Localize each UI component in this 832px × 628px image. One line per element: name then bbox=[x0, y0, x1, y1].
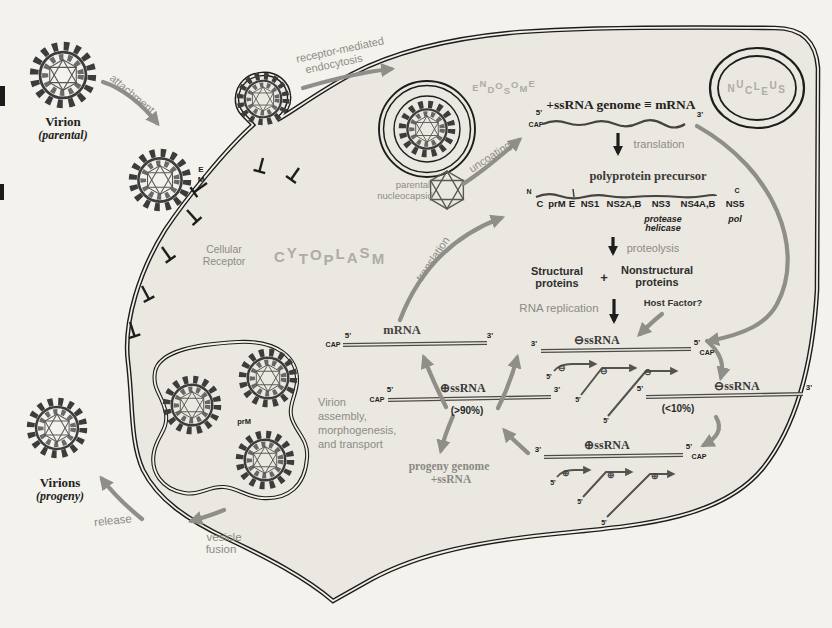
segment-ns1: NS1 bbox=[581, 199, 599, 209]
ri-top-cap: CAP bbox=[700, 349, 715, 356]
genome-three-prime: 3' bbox=[697, 111, 703, 119]
mrna-cap: CAP bbox=[326, 341, 341, 348]
host-factor-label: Host Factor? bbox=[644, 298, 703, 308]
ri-bottom-nascent-symbol-2: ⊕ bbox=[607, 471, 615, 480]
nonstructural-proteins-line2: proteins bbox=[635, 277, 678, 288]
ri-bottom-nascent-five-3: 5' bbox=[601, 519, 607, 526]
minus-three-prime: 3' bbox=[806, 384, 812, 392]
virions-progeny-subtitle: (progeny) bbox=[36, 490, 84, 502]
assembly-label-line1: Virion bbox=[318, 397, 346, 408]
assembly-label-line2: assembly, bbox=[318, 411, 367, 422]
virion-parental-title: Virion bbox=[45, 115, 81, 128]
segment-ns5: NS5 bbox=[726, 199, 744, 209]
flavivirus-lifecycle-figure: Virion (parental) attachment receptor-me… bbox=[0, 0, 832, 628]
ns3-helicase-label: helicase bbox=[645, 224, 681, 233]
plus-five-prime: 5' bbox=[387, 386, 393, 394]
polyprotein-c-terminus: C bbox=[734, 187, 739, 194]
attached-virion-icon bbox=[133, 153, 187, 207]
progeny-genome-label-line2: +ssRNA bbox=[431, 474, 471, 486]
ri-bottom-nascent-symbol-3: ⊕ bbox=[651, 472, 659, 481]
endosome-label: ENDOSOME bbox=[472, 82, 535, 92]
e-protein-label: E bbox=[198, 166, 203, 174]
virion-parental-subtitle: (parental) bbox=[38, 129, 87, 141]
parental-virion-icon bbox=[34, 46, 92, 104]
vesicle-fusion-label-line2: fusion bbox=[206, 544, 237, 556]
genome-five-prime: 5' bbox=[536, 109, 542, 117]
segment-ns2ab: NS2A,B bbox=[607, 199, 642, 209]
ns5-pol-label: pol bbox=[728, 215, 742, 224]
segment-ns4ab: NS4A,B bbox=[681, 199, 716, 209]
ri-top-nascent-five-2: 5' bbox=[575, 396, 581, 403]
ri-top-nascent-symbol-3: ⊖ bbox=[644, 368, 652, 377]
progeny-genome-label-line1: progeny genome bbox=[409, 461, 490, 473]
translation-label: translation bbox=[634, 139, 685, 150]
ri-bottom-label: ⊕ssRNA bbox=[584, 439, 629, 451]
prm-label: prM bbox=[237, 418, 251, 426]
structural-proteins-line1: Structural bbox=[531, 266, 583, 277]
structural-proteins-line2: proteins bbox=[535, 278, 578, 289]
released-virion-icon bbox=[31, 402, 84, 455]
m-protein-label: M bbox=[198, 176, 205, 184]
segment-ns3: NS3 bbox=[652, 199, 670, 209]
ri-top-nascent-symbol-1: ⊖ bbox=[558, 364, 566, 373]
ri-bottom-five-prime: 5' bbox=[686, 443, 692, 451]
ri-top-label: ⊖ssRNA bbox=[574, 334, 619, 346]
polyprotein-n-terminus: N bbox=[526, 188, 531, 195]
minus-five-prime: 5' bbox=[637, 385, 643, 393]
segment-c: C bbox=[537, 199, 544, 209]
virions-progeny-title: Virions bbox=[40, 476, 81, 489]
genome-title: +ssRNA genome ≡ mRNA bbox=[546, 98, 695, 112]
minus-percentage: (<10%) bbox=[662, 404, 695, 414]
ri-top-nascent-symbol-2: ⊖ bbox=[600, 367, 608, 376]
plus-percentage: (>90%) bbox=[451, 406, 484, 416]
mrna-label: mRNA bbox=[383, 324, 421, 337]
mrna-five-prime: 5' bbox=[345, 332, 351, 340]
proteolysis-label: proteolysis bbox=[627, 243, 680, 254]
assembly-label-line3: morphogenesis, bbox=[318, 425, 396, 436]
rna-replication-label: RNA replication bbox=[519, 303, 598, 315]
ri-bottom-nascent-five-2: 5' bbox=[577, 498, 583, 505]
nucleocapsid-label-line2: nucleocapsid bbox=[377, 191, 432, 201]
scan-artifact-1 bbox=[0, 86, 5, 106]
plus-sign: + bbox=[600, 271, 608, 284]
segment-prm: prM bbox=[548, 199, 565, 209]
cellular-receptor-label-line1: Cellular bbox=[206, 244, 242, 255]
cellular-receptor-label-line2: Receptor bbox=[203, 256, 246, 267]
assembly-label-line4: and transport bbox=[318, 439, 383, 450]
mrna-three-prime: 3' bbox=[487, 332, 493, 340]
genome-cap: CAP bbox=[529, 121, 544, 128]
nucleus-label: NUCLEUS bbox=[728, 83, 787, 93]
plus-three-prime: 3' bbox=[554, 386, 560, 394]
minus-strand-label: ⊖ssRNA bbox=[714, 380, 759, 392]
segment-e: E bbox=[569, 199, 575, 209]
ri-bottom-cap: CAP bbox=[692, 453, 707, 460]
ri-bottom-three-prime: 3' bbox=[535, 446, 541, 454]
vesicle-fusion-label-line1: vesicle bbox=[206, 532, 241, 544]
plus-cap: CAP bbox=[370, 396, 385, 403]
ri-bottom-nascent-five-1: 5' bbox=[550, 479, 556, 486]
nonstructural-proteins-line1: Nonstructural bbox=[621, 265, 693, 276]
scan-artifact-2 bbox=[0, 184, 4, 200]
plus-strand-label: ⊕ssRNA bbox=[440, 382, 485, 394]
ri-top-five-prime: 5' bbox=[694, 339, 700, 347]
polyprotein-title: polyprotein precursor bbox=[589, 170, 706, 183]
ri-bottom-nascent-symbol-1: ⊕ bbox=[562, 469, 570, 478]
cytoplasm-label: CYTOPLASM bbox=[274, 248, 386, 263]
ri-top-three-prime: 3' bbox=[531, 340, 537, 348]
nucleocapsid-label-line1: parental bbox=[396, 180, 430, 190]
ri-top-nascent-five-3: 5' bbox=[603, 417, 609, 424]
polyprotein-e-tick bbox=[573, 189, 574, 197]
ri-top-nascent-five-1: 5' bbox=[546, 373, 552, 380]
